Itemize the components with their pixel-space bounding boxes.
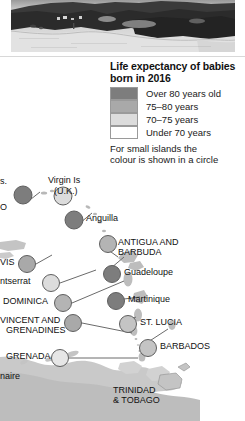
legend-item-under-70: Under 70 years [110, 126, 244, 139]
infographic-page: s. O Virgin Is (U.K.) Anguilla ANTIGUA A… [0, 0, 245, 421]
legend-swatch-under-70 [110, 126, 138, 139]
legend-label-75-80: 75–80 years [146, 100, 198, 113]
legend-item-70-75: 70–75 years [110, 113, 244, 126]
map-label-antigua-2: BARBUDA [118, 248, 162, 258]
map-label-barbados: BARBADOS [160, 342, 210, 352]
map-label-st-lucia: ST. LUCIA [140, 318, 182, 328]
legend-note-line2: colour is shown in a circle [110, 154, 218, 165]
map-label-bonaire: naire [0, 372, 20, 382]
map-label-nevis: VIS [0, 258, 15, 268]
map-label-puerto-rico: O [0, 203, 7, 213]
legend-swatch-over-80 [110, 87, 138, 100]
map-label-guadeloupe: Guadeloupe [124, 268, 173, 278]
map-label-trinidad-2: & TOBAGO [113, 396, 160, 406]
legend-swatch-70-75 [110, 113, 138, 126]
map-label-virgin-is-uk-1: Virgin Is [48, 176, 80, 186]
legend-title-line1: Life expectancy of babies [110, 60, 235, 72]
legend-title-line2: born in 2016 [110, 72, 171, 84]
map-label-anguilla: Anguilla [86, 214, 118, 224]
map-label-st-vincent-2: GRENADINES [6, 326, 66, 336]
map-label-montserrat: ntserrat [0, 277, 31, 287]
legend-label-70-75: 70–75 years [146, 113, 198, 126]
map-label-dominica: DOMINICA [3, 297, 48, 307]
map-label-virgin-is-uk-2: (U.K.) [54, 187, 78, 197]
map-label-grenada: GRENADA [6, 352, 51, 362]
legend-swatch-75-80 [110, 100, 138, 113]
legend-item-over-80: Over 80 years old [110, 87, 244, 100]
caribbean-coastline-photo [11, 0, 235, 52]
legend-note: For small islands the colour is shown in… [110, 143, 245, 165]
legend-note-line1: For small islands the [110, 143, 197, 154]
legend-title: Life expectancy of babies born in 2016 [110, 61, 244, 84]
legend-label-over-80: Over 80 years old [146, 87, 221, 100]
map-label-virgin-is-us: s. [0, 177, 7, 187]
legend-item-75-80: 75–80 years [110, 100, 244, 113]
legend-panel: Life expectancy of babies born in 2016 O… [104, 58, 245, 170]
legend-swatch-list: Over 80 years old 75–80 years 70–75 year… [110, 87, 244, 139]
legend-label-under-70: Under 70 years [146, 126, 211, 139]
map-label-martinique: Martinique [128, 295, 170, 305]
